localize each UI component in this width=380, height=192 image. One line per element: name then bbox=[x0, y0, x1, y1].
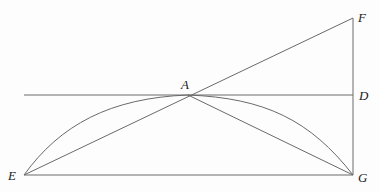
label-E: E bbox=[7, 168, 16, 183]
label-F: F bbox=[357, 10, 367, 25]
geometry-figure: A D E F G bbox=[0, 0, 380, 192]
label-D: D bbox=[358, 88, 369, 103]
label-A: A bbox=[180, 77, 189, 92]
label-G: G bbox=[358, 170, 368, 185]
diagram-canvas: A D E F G bbox=[0, 0, 380, 192]
line-AG bbox=[188, 95, 353, 175]
